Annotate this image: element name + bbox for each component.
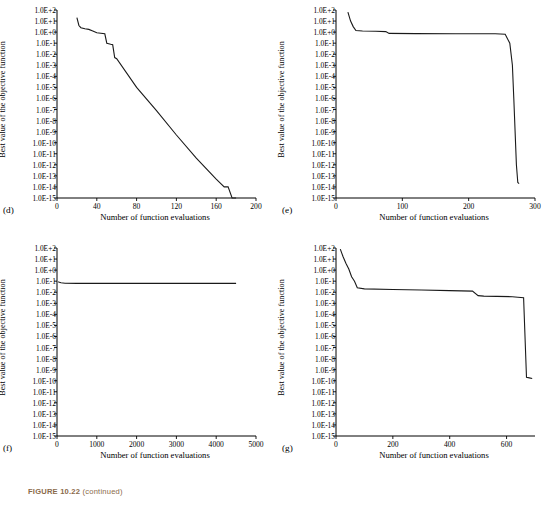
y-tick-label: 1.0E+0 xyxy=(313,266,335,275)
y-tick-label: 1.0E-15 xyxy=(311,432,335,441)
y-tick-label: 1.0E-3 xyxy=(36,299,56,308)
y-tick-labels-g: 1.0E+21.0E+11.0E+01.0E-11.0E-21.0E-31.0E… xyxy=(291,240,335,440)
y-tick-label: 1.0E-11 xyxy=(312,387,335,396)
figure-caption: FIGURE 10.22 (continued) xyxy=(28,487,123,496)
y-tick-label: 1.0E+0 xyxy=(34,28,56,37)
y-tick-label: 1.0E-3 xyxy=(36,61,56,70)
y-tick-labels-d: 1.0E+21.0E+11.0E+01.0E-11.0E-21.0E-31.0E… xyxy=(12,2,56,202)
x-tick-label: 2000 xyxy=(129,440,144,449)
y-tick-label: 1.0E-10 xyxy=(311,138,335,147)
x-tick-label: 0 xyxy=(334,202,338,211)
y-tick-label: 1.0E-4 xyxy=(36,310,56,319)
figure-caption-label: FIGURE 10.22 xyxy=(28,487,80,496)
y-axis-label-f: Best value of the objective function xyxy=(0,245,10,430)
y-tick-label: 1.0E-7 xyxy=(36,105,56,114)
panel-letter-f: (f) xyxy=(3,443,12,453)
y-tick-label: 1.0E-2 xyxy=(315,288,335,297)
y-tick-label: 1.0E-9 xyxy=(36,127,56,136)
chart-panel-e: Best value of the objective function 1.0… xyxy=(279,2,558,234)
y-tick-label: 1.0E-14 xyxy=(32,182,56,191)
y-tick-label: 1.0E-5 xyxy=(315,321,335,330)
y-tick-label: 1.0E-13 xyxy=(32,409,56,418)
y-tick-label: 1.0E-12 xyxy=(32,398,56,407)
panel-letter-g: (g) xyxy=(282,443,293,453)
y-tick-label: 1.0E-1 xyxy=(36,277,56,286)
y-tick-label: 1.0E+1 xyxy=(34,255,56,264)
x-axis-label-f: Number of function evaluations xyxy=(40,450,270,460)
axes-e xyxy=(336,10,535,198)
x-tick-label: 5000 xyxy=(248,440,263,449)
y-tick-labels-e: 1.0E+21.0E+11.0E+01.0E-11.0E-21.0E-31.0E… xyxy=(291,2,335,202)
y-tick-label: 1.0E-1 xyxy=(315,277,335,286)
chart-panel-f: Best value of the objective function 1.0… xyxy=(0,240,279,472)
y-tick-label: 1.0E-3 xyxy=(315,299,335,308)
y-tick-label: 1.0E+2 xyxy=(34,6,56,15)
y-tick-label: 1.0E-14 xyxy=(32,420,56,429)
y-tick-label: 1.0E+0 xyxy=(313,28,335,37)
y-tick-label: 1.0E-3 xyxy=(315,61,335,70)
plot-area-f: Best value of the objective function 1.0… xyxy=(0,240,279,472)
y-tick-label: 1.0E-6 xyxy=(36,332,56,341)
y-tick-label: 1.0E-10 xyxy=(32,138,56,147)
plot-area-e: Best value of the objective function 1.0… xyxy=(279,2,558,234)
y-tick-label: 1.0E-15 xyxy=(311,194,335,203)
axes-d xyxy=(57,10,256,198)
y-tick-label: 1.0E-13 xyxy=(311,409,335,418)
y-tick-label: 1.0E+0 xyxy=(34,266,56,275)
x-tick-label: 300 xyxy=(529,202,540,211)
y-tick-label: 1.0E-8 xyxy=(315,116,335,125)
y-tick-label: 1.0E-12 xyxy=(32,160,56,169)
y-axis-label-e: Best value of the objective function xyxy=(277,7,289,192)
axes-f xyxy=(57,248,256,436)
figure-panel-grid: Best value of the objective function 1.0… xyxy=(0,0,558,470)
y-tick-label: 1.0E-15 xyxy=(32,432,56,441)
y-tick-label: 1.0E-7 xyxy=(315,343,335,352)
y-axis-label-d: Best value of the objective function xyxy=(0,7,10,192)
y-tick-label: 1.0E-5 xyxy=(36,321,56,330)
y-tick-label: 1.0E+1 xyxy=(313,255,335,264)
y-tick-label: 1.0E-8 xyxy=(36,116,56,125)
x-tick-label: 200 xyxy=(463,202,474,211)
series-line-f xyxy=(58,282,236,284)
y-tick-label: 1.0E-6 xyxy=(36,94,56,103)
x-tick-label: 80 xyxy=(133,202,141,211)
series-line-d xyxy=(77,18,236,198)
y-tick-label: 1.0E-14 xyxy=(311,182,335,191)
series-line-e xyxy=(348,12,519,183)
panel-letter-e: (e) xyxy=(282,205,292,215)
y-tick-label: 1.0E-2 xyxy=(315,50,335,59)
plot-area-g: Best value of the objective function 1.0… xyxy=(279,240,558,472)
y-tick-label: 1.0E-5 xyxy=(315,83,335,92)
y-tick-label: 1.0E-2 xyxy=(36,50,56,59)
x-tick-label: 200 xyxy=(250,202,261,211)
x-tick-label: 1000 xyxy=(89,440,104,449)
x-axis-label-g: Number of function evaluations xyxy=(319,450,549,460)
axes-g xyxy=(336,248,535,436)
y-tick-label: 1.0E+2 xyxy=(313,244,335,253)
x-tick-label: 4000 xyxy=(209,440,224,449)
y-tick-label: 1.0E-1 xyxy=(36,39,56,48)
y-tick-label: 1.0E-4 xyxy=(315,72,335,81)
panel-letter-d: (d) xyxy=(3,205,14,215)
x-tick-label: 100 xyxy=(397,202,408,211)
y-tick-label: 1.0E-8 xyxy=(315,354,335,363)
y-tick-label: 1.0E-14 xyxy=(311,420,335,429)
y-tick-label: 1.0E+1 xyxy=(34,17,56,26)
y-axis-label-g: Best value of the objective function xyxy=(277,245,289,430)
y-tick-label: 1.0E-9 xyxy=(36,365,56,374)
y-tick-label: 1.0E-13 xyxy=(311,171,335,180)
x-tick-label: 3000 xyxy=(169,440,184,449)
y-tick-label: 1.0E-9 xyxy=(315,365,335,374)
plot-area-d: Best value of the objective function 1.0… xyxy=(0,2,279,234)
y-tick-label: 1.0E-1 xyxy=(315,39,335,48)
x-tick-label: 200 xyxy=(387,440,398,449)
y-tick-labels-f: 1.0E+21.0E+11.0E+01.0E-11.0E-21.0E-31.0E… xyxy=(12,240,56,440)
y-tick-label: 1.0E-11 xyxy=(33,149,56,158)
figure-caption-text: (continued) xyxy=(83,487,123,496)
x-tick-label: 0 xyxy=(55,202,59,211)
x-axis-label-d: Number of function evaluations xyxy=(40,212,270,222)
series-line-g xyxy=(340,249,532,378)
x-tick-label: 600 xyxy=(501,440,512,449)
x-tick-label: 400 xyxy=(444,440,455,449)
x-tick-label: 160 xyxy=(210,202,221,211)
